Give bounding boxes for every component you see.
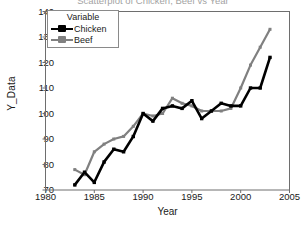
data-point-beef	[112, 138, 115, 141]
series-line-chicken	[75, 57, 270, 184]
data-point-beef	[200, 110, 203, 113]
legend-swatch-icon	[51, 24, 73, 34]
data-point-chicken	[180, 107, 183, 110]
legend-item-beef[interactable]: Beef	[51, 34, 115, 45]
data-point-chicken	[161, 107, 164, 110]
data-point-beef	[220, 110, 223, 113]
legend-swatch-icon	[51, 35, 73, 45]
data-point-chicken	[249, 86, 252, 89]
data-point-beef	[259, 46, 262, 49]
data-point-beef	[122, 135, 125, 138]
data-point-beef	[73, 168, 76, 171]
data-point-beef	[181, 102, 184, 105]
data-point-chicken	[268, 56, 271, 59]
data-point-chicken	[112, 148, 115, 151]
legend-items: ChickenBeef	[51, 23, 115, 45]
data-point-beef	[171, 97, 174, 100]
data-point-beef	[151, 115, 154, 118]
data-point-chicken	[122, 150, 125, 153]
data-point-beef	[132, 125, 135, 128]
data-point-chicken	[229, 104, 232, 107]
data-point-chicken	[200, 117, 203, 120]
data-point-chicken	[73, 183, 76, 186]
legend-label: Chicken	[73, 24, 107, 34]
data-point-beef	[161, 112, 164, 115]
data-point-beef	[93, 150, 96, 153]
data-point-beef	[239, 87, 242, 90]
data-point-chicken	[220, 102, 223, 105]
data-point-chicken	[210, 109, 213, 112]
data-point-chicken	[190, 99, 193, 102]
data-point-chicken	[171, 104, 174, 107]
data-point-chicken	[141, 112, 144, 115]
data-point-chicken	[93, 181, 96, 184]
data-point-chicken	[132, 135, 135, 138]
data-series-layer	[73, 28, 272, 187]
plot-area	[0, 0, 306, 225]
legend-item-chicken[interactable]: Chicken	[51, 23, 115, 34]
data-point-chicken	[151, 119, 154, 122]
series-line-beef	[75, 29, 270, 174]
legend-label: Beef	[73, 35, 93, 45]
legend: Variable ChickenBeef	[47, 10, 119, 48]
data-point-chicken	[83, 171, 86, 174]
data-point-chicken	[239, 104, 242, 107]
data-point-beef	[269, 28, 272, 31]
legend-title: Variable	[51, 12, 115, 23]
data-point-beef	[103, 143, 106, 146]
data-point-beef	[249, 64, 252, 67]
scatterplot-chart: Scatterplot of Chicken, Beef vs Year Y_D…	[0, 0, 306, 225]
data-point-chicken	[102, 160, 105, 163]
data-point-chicken	[259, 86, 262, 89]
